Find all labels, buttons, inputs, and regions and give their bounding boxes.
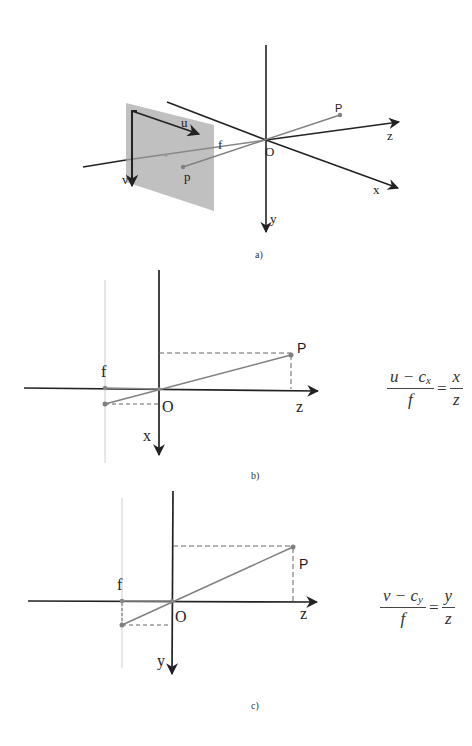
point-p	[103, 402, 108, 407]
image-plane	[126, 103, 214, 211]
label-x: x	[373, 182, 380, 197]
z-axis	[24, 388, 318, 391]
point-f	[120, 599, 125, 604]
rhs-denominator: z	[453, 389, 460, 410]
z-axis	[266, 122, 399, 140]
label-O: O	[162, 398, 174, 415]
point-f	[103, 386, 108, 391]
caption-c: c)	[251, 700, 259, 712]
caption-a: a)	[255, 249, 263, 261]
figure-c-yz-projection: f O y z P c)	[28, 491, 317, 712]
label-z: z	[296, 398, 303, 415]
label-u: u	[181, 115, 188, 130]
focal-segment	[105, 388, 159, 389]
label-P: P	[335, 102, 342, 114]
rhs-numerator: x	[450, 368, 464, 389]
label-P: P	[297, 340, 306, 356]
label-z: z	[387, 128, 393, 143]
lhs-numerator: v − c	[383, 586, 418, 605]
lhs-numerator-sub: x	[426, 374, 431, 386]
label-v: v	[122, 172, 129, 187]
lhs-numerator: u − c	[390, 367, 426, 386]
label-f: f	[218, 137, 223, 152]
equation-c-rhs: y z	[442, 587, 456, 629]
rhs-numerator: y	[442, 587, 456, 608]
vertical-axis	[172, 491, 173, 674]
figure-b-xz-projection: f O x z P b)	[24, 270, 318, 482]
lhs-denominator: f	[408, 389, 413, 410]
label-x: x	[143, 427, 151, 444]
x-axis	[266, 140, 398, 188]
origin	[170, 599, 174, 603]
caption-b: b)	[251, 470, 259, 482]
figure-a-3d-camera-model: u v f p P O z x y a)	[83, 45, 399, 261]
optical-axis-back	[83, 160, 126, 167]
label-p: p	[184, 169, 191, 184]
equation-b: u − cx f = x z	[387, 368, 463, 410]
equation-b-rhs: x z	[450, 368, 464, 410]
projection-ray	[122, 547, 293, 625]
label-y: y	[270, 211, 277, 226]
origin	[157, 387, 161, 391]
label-f: f	[101, 363, 107, 380]
principal-point	[164, 153, 168, 157]
point-p	[120, 623, 125, 628]
rhs-denominator: z	[445, 608, 452, 629]
equals-sign: =	[437, 379, 447, 399]
equation-c-lhs: v − cy f	[380, 587, 426, 629]
equation-b-lhs: u − cx f	[387, 368, 434, 410]
label-O: O	[175, 608, 187, 625]
equation-c: v − cy f = y z	[380, 587, 455, 629]
projection-ray	[105, 355, 291, 404]
label-O: O	[265, 144, 274, 159]
lhs-denominator: f	[401, 608, 406, 629]
label-z: z	[300, 605, 307, 622]
label-P: P	[299, 556, 308, 572]
lhs-numerator-sub: y	[418, 593, 423, 605]
label-f: f	[117, 576, 123, 593]
equals-sign: =	[429, 598, 439, 618]
point-P	[291, 545, 296, 550]
label-y: y	[157, 652, 165, 670]
point-P	[289, 353, 294, 358]
